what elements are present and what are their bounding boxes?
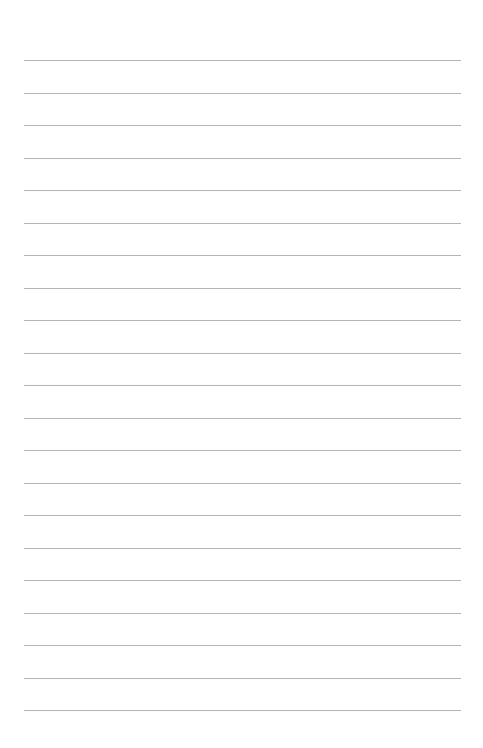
ruled-line <box>24 450 461 451</box>
ruled-line <box>24 645 461 646</box>
ruled-line <box>24 515 461 516</box>
ruled-line <box>24 483 461 484</box>
ruled-line <box>24 190 461 191</box>
ruled-line <box>24 60 461 61</box>
ruled-line <box>24 613 461 614</box>
ruled-line <box>24 418 461 419</box>
ruled-line <box>24 125 461 126</box>
ruled-line <box>24 288 461 289</box>
ruled-line <box>24 93 461 94</box>
ruled-line <box>24 353 461 354</box>
ruled-line <box>24 580 461 581</box>
ruled-line <box>24 710 461 711</box>
ruled-line <box>24 223 461 224</box>
ruled-line <box>24 158 461 159</box>
ruled-line <box>24 320 461 321</box>
ruled-line <box>24 255 461 256</box>
ruled-line <box>24 385 461 386</box>
lined-paper-page <box>0 0 483 748</box>
ruled-line <box>24 548 461 549</box>
ruled-line <box>24 678 461 679</box>
